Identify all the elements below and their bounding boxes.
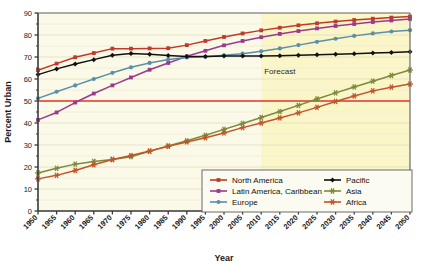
y-tick-label-10: 10 [24, 185, 32, 194]
data-point [389, 29, 393, 33]
legend-label: North America [232, 176, 283, 185]
data-point [166, 61, 170, 65]
data-point [217, 189, 221, 193]
chart-legend: North AmericaLatin America, CaribbeanEur… [202, 170, 412, 212]
data-point [204, 39, 208, 43]
x-axis-title: Year [214, 253, 234, 263]
data-point [92, 77, 96, 81]
data-point [278, 46, 282, 50]
data-point [241, 39, 245, 43]
data-point [129, 65, 133, 69]
y-tick-label-70: 70 [24, 53, 32, 62]
data-point [278, 26, 282, 30]
data-point [334, 20, 338, 24]
y-tick-label-50: 50 [24, 97, 32, 106]
y-tick-label-20: 20 [24, 163, 32, 172]
data-point [278, 32, 282, 36]
y-tick-label-60: 60 [24, 75, 32, 84]
data-point [371, 20, 375, 24]
data-point [371, 17, 375, 21]
data-point [73, 55, 77, 59]
data-point [334, 24, 338, 28]
data-point [216, 200, 220, 204]
data-point [222, 43, 226, 47]
data-point [111, 47, 115, 51]
data-point [297, 29, 301, 33]
data-point [92, 51, 96, 55]
data-point [315, 40, 319, 44]
data-point [73, 83, 77, 87]
data-point [334, 37, 338, 41]
y-tick-label-90: 90 [24, 9, 32, 18]
data-point [148, 47, 152, 51]
data-point [204, 49, 208, 53]
data-point [352, 34, 356, 38]
legend-label: Pacific [346, 176, 370, 185]
forecast-label: Forecast [264, 67, 296, 76]
data-point [73, 101, 77, 105]
data-point [222, 35, 226, 39]
data-point [148, 61, 152, 65]
data-point [352, 22, 356, 26]
data-point [129, 76, 133, 80]
data-point [110, 71, 114, 75]
data-point [92, 92, 96, 96]
data-point [259, 35, 263, 39]
data-point [315, 21, 319, 25]
legend-label: Europe [232, 198, 258, 207]
legend-label: Africa [346, 198, 367, 207]
data-point [166, 46, 170, 50]
data-point [352, 18, 356, 22]
y-tick-label-80: 80 [24, 31, 32, 40]
data-point [129, 47, 133, 51]
y-tick-label-40: 40 [24, 119, 32, 128]
legend-label: Latin America, Caribbean [232, 187, 322, 196]
y-axis-title: Percent Urban [3, 81, 13, 143]
data-point [259, 49, 263, 53]
data-point [259, 28, 263, 32]
y-tick-label-30: 30 [24, 141, 32, 150]
data-point [390, 19, 394, 23]
data-point [315, 27, 319, 31]
data-point [111, 83, 115, 87]
data-point [217, 178, 221, 182]
data-point [297, 23, 301, 27]
urbanization-line-chart: 0102030405060708090 19501955196019651970… [0, 0, 442, 264]
chart-container: 0102030405060708090 19501955196019651970… [0, 0, 442, 264]
data-point [148, 68, 152, 72]
data-point [55, 111, 59, 115]
data-point [55, 90, 59, 94]
data-point [55, 62, 59, 66]
data-point [371, 31, 375, 35]
data-point [185, 43, 189, 47]
legend-label: Asia [346, 187, 362, 196]
data-point [241, 32, 245, 36]
data-point [296, 43, 300, 47]
